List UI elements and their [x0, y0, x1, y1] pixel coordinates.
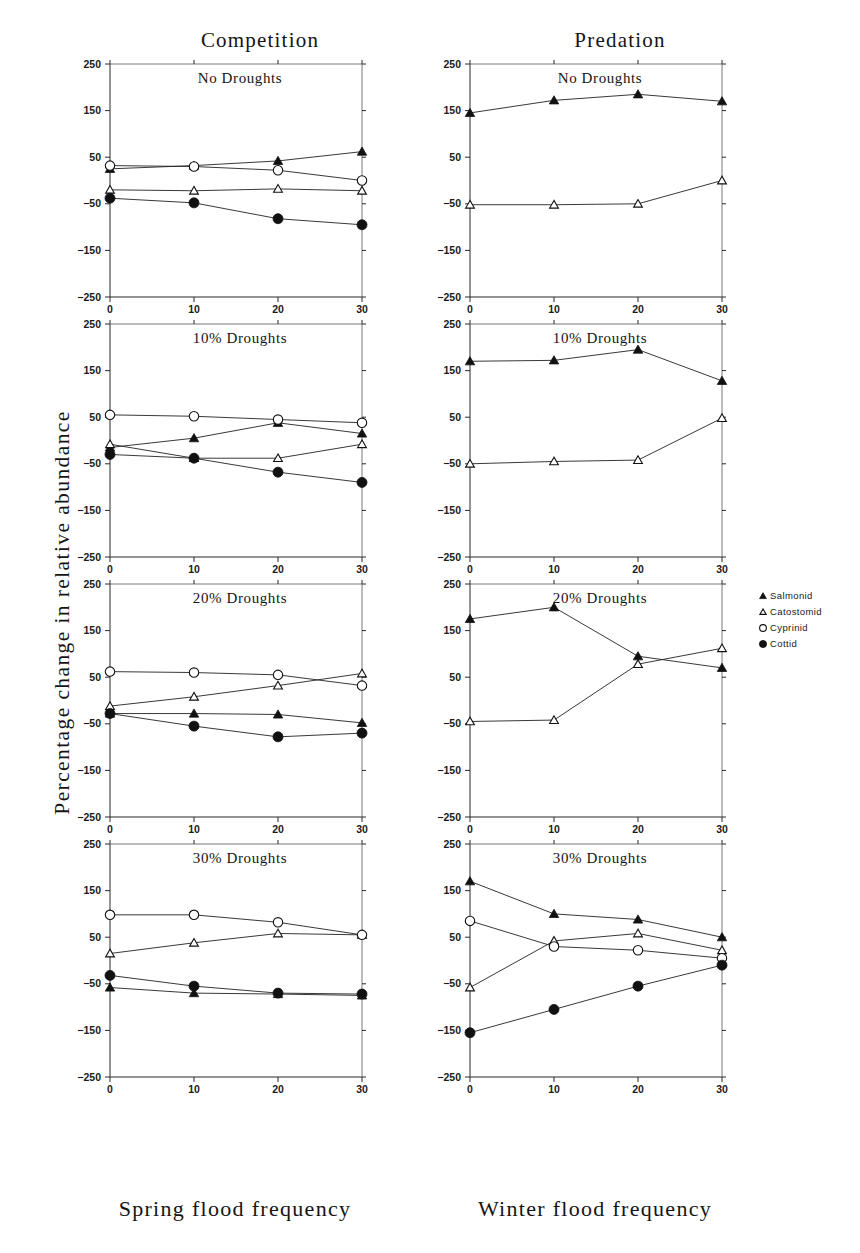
data-point-marker: [465, 916, 474, 925]
y-tick-label: −50: [443, 977, 461, 989]
y-tick-label: 250: [83, 318, 101, 330]
data-point-marker: [549, 942, 558, 951]
series-catostomid: [106, 185, 367, 195]
x-axis-label-spring-flood-frequency: Spring flood frequency: [50, 1196, 420, 1222]
x-tick-label: 20: [272, 1083, 284, 1095]
series-line: [470, 921, 722, 958]
data-point-marker: [189, 668, 198, 677]
open-circle-icon: [756, 622, 770, 634]
y-tick-label: 50: [89, 151, 101, 163]
data-point-marker: [634, 456, 643, 464]
series-salmonid: [465, 603, 726, 672]
panel-title: 30% Droughts: [193, 850, 287, 866]
series-catostomid: [466, 176, 727, 208]
x-tick-label: 20: [632, 1083, 644, 1095]
series-line: [110, 933, 362, 953]
data-point-marker: [105, 410, 114, 419]
data-point-marker: [633, 90, 642, 98]
y-tick-label: −250: [437, 291, 461, 303]
legend: SalmonidCatostomidCyprinidCottid: [756, 588, 860, 652]
y-tick-label: 150: [443, 364, 461, 376]
series-line: [470, 350, 722, 381]
data-point-marker: [105, 193, 115, 203]
legend-item-salmonid: Salmonid: [756, 588, 860, 603]
data-point-marker: [189, 453, 199, 463]
series-line: [110, 975, 362, 994]
y-tick-label: −150: [77, 1024, 101, 1036]
data-point-marker: [633, 946, 642, 955]
legend-label: Cottid: [770, 638, 797, 649]
series-cottid: [105, 449, 367, 487]
y-tick-label: 50: [89, 931, 101, 943]
data-point-marker: [717, 960, 727, 970]
data-point-marker: [465, 877, 474, 885]
y-tick-label: 50: [449, 671, 461, 683]
y-tick-label: −250: [437, 551, 461, 563]
series-line: [470, 418, 722, 464]
data-point-marker: [273, 214, 283, 224]
x-tick-label: 30: [356, 1083, 368, 1095]
series-line: [470, 648, 722, 721]
series-line: [110, 714, 362, 737]
data-point-marker: [273, 166, 282, 175]
panel-predation-no-droughts: −250−150−50501502500102030No Droughts: [422, 52, 742, 314]
series-line: [110, 673, 362, 706]
data-point-marker: [189, 198, 199, 208]
y-tick-label: −150: [77, 244, 101, 256]
panel-title: 10% Droughts: [553, 330, 647, 346]
series-catostomid: [466, 929, 727, 991]
data-point-marker: [466, 983, 475, 991]
data-point-marker: [105, 970, 115, 980]
series-line: [470, 607, 722, 668]
data-point-marker: [273, 670, 282, 679]
data-point-marker: [189, 721, 199, 731]
y-tick-label: 150: [83, 104, 101, 116]
series-salmonid: [465, 90, 726, 117]
series-cottid: [105, 193, 367, 230]
series-catostomid: [466, 414, 727, 467]
data-point-marker: [465, 1028, 475, 1038]
panel-title: 20% Droughts: [193, 590, 287, 606]
series-line: [470, 94, 722, 113]
data-point-marker: [105, 709, 115, 719]
data-point-marker: [189, 910, 198, 919]
data-point-marker: [549, 1004, 559, 1014]
y-tick-label: −150: [437, 1024, 461, 1036]
x-axis-label-winter-flood-frequency: Winter flood frequency: [410, 1196, 780, 1222]
data-point-marker: [189, 162, 198, 171]
data-point-marker: [189, 709, 198, 717]
data-point-marker: [357, 220, 367, 230]
y-tick-label: −250: [437, 1071, 461, 1083]
y-tick-label: 50: [449, 411, 461, 423]
x-tick-label: 10: [548, 1083, 560, 1095]
y-tick-label: 250: [83, 578, 101, 590]
panel-title: 30% Droughts: [553, 850, 647, 866]
data-point-marker: [633, 345, 642, 353]
data-point-marker: [550, 716, 559, 724]
series-catostomid: [106, 440, 367, 462]
data-point-marker: [465, 357, 474, 365]
series-line: [470, 965, 722, 1033]
series-salmonid: [105, 983, 366, 999]
panel-competition-10-droughts: −250−150−5050150250010203010% Droughts: [62, 312, 382, 574]
data-point-marker: [549, 909, 558, 917]
data-point-marker: [106, 440, 115, 448]
series-salmonid: [105, 418, 366, 451]
y-tick-label: 150: [83, 884, 101, 896]
y-tick-label: −50: [83, 197, 101, 209]
data-point-marker: [633, 652, 642, 660]
y-tick-label: −50: [443, 717, 461, 729]
data-point-marker: [273, 710, 282, 718]
series-cyprinid: [105, 410, 366, 427]
series-catostomid: [466, 644, 727, 725]
y-tick-label: 150: [443, 884, 461, 896]
series-cyprinid: [465, 916, 726, 963]
open-triangle-icon: [756, 606, 770, 618]
series-cottid: [465, 960, 727, 1038]
column-title-competition: Competition: [110, 28, 410, 53]
y-tick-label: −150: [77, 504, 101, 516]
series-line: [110, 423, 362, 448]
y-tick-label: 50: [89, 411, 101, 423]
data-point-marker: [357, 728, 367, 738]
column-title-predation: Predation: [470, 28, 770, 53]
